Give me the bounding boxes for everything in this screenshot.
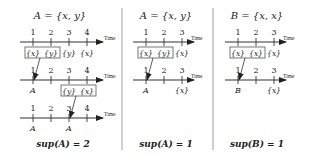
tick-label: 1 <box>30 66 35 75</box>
time-axis-label: Time <box>104 35 116 41</box>
tick-label: 3 <box>66 66 71 75</box>
panel-3: B = {x, x} Time 1 2 3 {x} {x} {x} Time 1… <box>225 10 295 149</box>
tick-label: 1 <box>235 66 240 75</box>
occurrence-mark: A <box>29 86 36 95</box>
tick-label: 4 <box>84 28 89 37</box>
support-counting-diagram: A = {x, y} Time 1 2 3 4 {x} {y} {y} {x} … <box>0 0 313 159</box>
tick-label: 1 <box>143 28 148 37</box>
event-label: {y} <box>62 49 76 58</box>
time-axis-label: Time <box>104 73 116 79</box>
tick-label: 3 <box>179 28 184 37</box>
tick-label: 3 <box>66 28 71 37</box>
tick-label: 2 <box>253 66 258 75</box>
occurrence-mark: B <box>234 86 241 95</box>
occurrence-mark: A <box>65 124 72 133</box>
event-label: {x} <box>175 49 189 58</box>
time-axis-label: Time <box>283 35 295 41</box>
timeline-row: Time 1 2 3 4 {x} {y} {y} {x} <box>20 28 116 58</box>
tick-label: 2 <box>161 66 166 75</box>
occurrence-mark: A <box>29 124 36 133</box>
event-label: {x} <box>267 49 281 58</box>
tick-label: 4 <box>84 104 89 113</box>
time-axis-label: Time <box>104 111 116 117</box>
tick-label: 1 <box>235 28 240 37</box>
tick-label: 1 <box>30 104 35 113</box>
tick-label: 2 <box>48 104 53 113</box>
time-axis-label: Time <box>283 73 295 79</box>
tick-label: 2 <box>48 28 53 37</box>
event-label: {x} <box>267 86 281 95</box>
event-label: {x} <box>175 86 189 95</box>
panel-2: A = {x, y} Time 1 2 3 {x} {y} {x} Time 1… <box>133 10 203 149</box>
event-label: {x} <box>249 49 263 58</box>
time-axis-label: Time <box>191 35 203 41</box>
tick-label: 4 <box>84 66 89 75</box>
tick-label: 1 <box>30 28 35 37</box>
event-label: {y} <box>157 49 171 58</box>
time-axis-label: Time <box>191 73 203 79</box>
panel-title: A = {x, y} <box>33 10 86 21</box>
timeline-row: Time 1 2 3 {x} {y} {x} <box>133 28 203 58</box>
panel-1: A = {x, y} Time 1 2 3 4 {x} {y} {y} {x} … <box>20 10 116 149</box>
panel-title: A = {x, y} <box>139 10 192 21</box>
panel-title: B = {x, x} <box>230 10 283 21</box>
tick-label: 2 <box>48 66 53 75</box>
timeline-row: Time 1 2 3 B {x} <box>225 66 295 95</box>
event-label: {x} <box>231 49 245 58</box>
timeline-row: Time 1 2 3 4 A {y} {x} <box>20 66 116 96</box>
tick-label: 2 <box>253 28 258 37</box>
event-label: {x} <box>26 49 40 58</box>
event-label: {x} <box>80 49 94 58</box>
timeline-row: Time 1 2 3 A {x} <box>133 66 203 95</box>
tick-label: 3 <box>271 28 276 37</box>
tick-label: 3 <box>66 104 71 113</box>
tick-label: 2 <box>161 28 166 37</box>
timeline-row: Time 1 2 3 {x} {x} {x} <box>225 28 295 58</box>
event-label: {x} <box>80 87 94 96</box>
event-label: {x} <box>139 49 153 58</box>
timeline-row: Time 1 2 3 4 A A <box>20 104 116 133</box>
tick-label: 3 <box>179 66 184 75</box>
tick-label: 1 <box>143 66 148 75</box>
tick-label: 3 <box>271 66 276 75</box>
support-result: sup(A) = 1 <box>139 139 192 149</box>
event-label: {y} <box>62 87 76 96</box>
support-result: sup(A) = 2 <box>36 139 89 149</box>
occurrence-mark: A <box>142 86 149 95</box>
event-label: {y} <box>44 49 58 58</box>
support-result: sup(B) = 1 <box>230 139 284 149</box>
